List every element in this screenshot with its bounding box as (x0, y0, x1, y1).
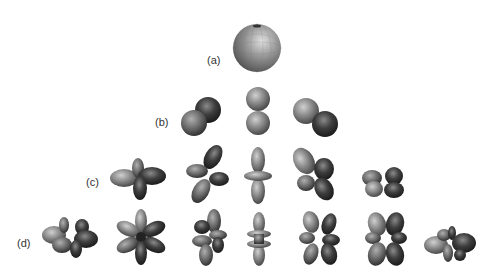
d-orbital-1 (108, 150, 168, 205)
d-orbital-5 (358, 162, 408, 202)
d-orbital-3 (243, 145, 273, 210)
f-orbital-2 (114, 207, 169, 267)
row-label-c: (c) (86, 176, 99, 188)
d-orbital-4 (290, 145, 340, 205)
p-orbital-1 (178, 95, 228, 140)
f-orbital-7 (422, 225, 477, 265)
d-orbital-2 (183, 143, 233, 208)
row-label-a: (a) (207, 54, 220, 66)
row-label-b: (b) (155, 116, 168, 128)
p-orbital-3 (290, 95, 345, 140)
f-orbital-3 (190, 207, 230, 267)
f-orbital-1 (40, 213, 100, 263)
s-orbital-sphere (232, 14, 282, 82)
f-orbital-4 (245, 210, 273, 268)
f-orbital-6 (361, 210, 411, 268)
p-orbital-2 (243, 85, 273, 140)
row-label-d: (d) (17, 237, 30, 249)
f-orbital-5 (297, 208, 342, 268)
